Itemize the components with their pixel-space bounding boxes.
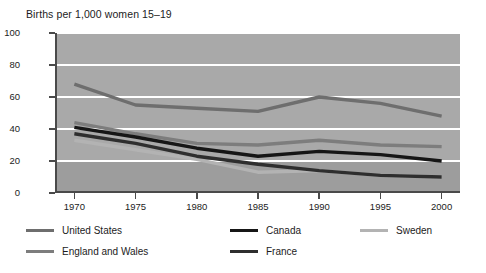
legend-color-swatch: [360, 229, 388, 232]
legend-item[interactable]: United States: [26, 225, 122, 236]
x-axis-tick: [196, 193, 198, 199]
legend-color-swatch: [26, 250, 54, 253]
x-axis-tick: [441, 193, 443, 199]
x-axis-tick-label: 1970: [51, 201, 97, 212]
series-line: [74, 84, 441, 116]
y-axis-tick-label: 100: [0, 27, 20, 38]
plot-wrapper: 020406080100 197019751980198519901995200…: [26, 28, 464, 203]
legend-item-label: England and Wales: [62, 246, 148, 257]
chart-legend: United StatesCanadaSwedenEngland and Wal…: [26, 225, 466, 267]
y-axis-tick: [49, 32, 55, 34]
x-axis-tick-label: 1985: [235, 201, 281, 212]
x-axis-tick: [257, 193, 259, 199]
legend-item[interactable]: England and Wales: [26, 246, 148, 257]
legend-color-swatch: [230, 250, 258, 253]
legend-item[interactable]: Canada: [230, 225, 301, 236]
legend-item[interactable]: France: [230, 246, 297, 257]
x-axis-tick-label: 2000: [419, 201, 465, 212]
legend-item-label: Sweden: [396, 225, 432, 236]
x-axis-tick-label: 1980: [174, 201, 220, 212]
y-axis-tick-label: 20: [0, 155, 20, 166]
x-axis-tick: [74, 193, 76, 199]
legend-item-label: Canada: [266, 225, 301, 236]
x-axis-tick-label: 1995: [357, 201, 403, 212]
y-axis-tick-label: 60: [0, 91, 20, 102]
chart-title: Births per 1,000 women 15–19: [26, 8, 172, 20]
y-axis-tick: [49, 96, 55, 98]
legend-item-label: United States: [62, 225, 122, 236]
legend-color-swatch: [230, 229, 258, 232]
y-axis-tick: [49, 128, 55, 130]
x-axis-tick: [380, 193, 382, 199]
x-axis-tick: [318, 193, 320, 199]
y-axis-tick: [49, 64, 55, 66]
chart-figure: Births per 1,000 women 15–19 02040608010…: [0, 0, 486, 273]
legend-color-swatch: [26, 229, 54, 232]
y-axis-tick-label: 0: [0, 187, 20, 198]
x-axis-tick: [135, 193, 137, 199]
legend-item[interactable]: Sweden: [360, 225, 432, 236]
y-axis-tick: [49, 192, 55, 194]
series-lines: [56, 33, 460, 193]
x-axis-tick-label: 1990: [296, 201, 342, 212]
x-axis-tick-label: 1975: [113, 201, 159, 212]
y-axis-tick-label: 80: [0, 59, 20, 70]
y-axis-tick: [49, 160, 55, 162]
y-axis-tick-label: 40: [0, 123, 20, 134]
legend-item-label: France: [266, 246, 297, 257]
